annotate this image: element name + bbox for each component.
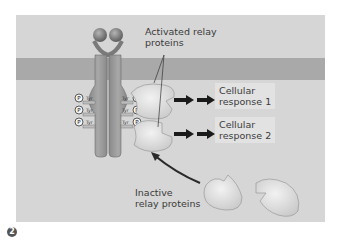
svg-text:Tyr: Tyr bbox=[121, 108, 129, 113]
step-number-badge: 2 bbox=[7, 227, 17, 237]
label-inactive-relay-proteins: Inactive relay proteins bbox=[135, 187, 200, 209]
cascade-arrows bbox=[174, 95, 215, 139]
response-line: response 2 bbox=[219, 130, 271, 141]
recruitment-arrow bbox=[154, 155, 200, 183]
diagram-panel: TyrTyrTyr TyrTyrTyr PPP PPP bbox=[16, 15, 325, 222]
svg-text:Tyr: Tyr bbox=[85, 108, 93, 113]
response-line: Cellular bbox=[219, 119, 271, 130]
cellular-response-1: Cellular response 1 bbox=[215, 83, 275, 109]
cellular-response-2: Cellular response 2 bbox=[215, 117, 275, 143]
inactive-relay-proteins bbox=[204, 175, 299, 216]
response-line: response 1 bbox=[219, 96, 271, 107]
label-line: Activated relay bbox=[145, 26, 217, 37]
svg-text:Tyr: Tyr bbox=[121, 96, 129, 101]
label-line: relay proteins bbox=[135, 198, 200, 209]
label-line: Inactive bbox=[135, 187, 200, 198]
svg-text:Tyr: Tyr bbox=[85, 96, 93, 101]
response-line: Cellular bbox=[219, 85, 271, 96]
svg-text:Tyr: Tyr bbox=[85, 120, 93, 125]
signal-molecules bbox=[93, 28, 123, 55]
label-line: proteins bbox=[145, 37, 217, 48]
label-activated-relay-proteins: Activated relay proteins bbox=[145, 26, 217, 48]
receptor-dimer: TyrTyrTyr TyrTyrTyr PPP PPP bbox=[75, 55, 141, 157]
svg-text:Tyr: Tyr bbox=[121, 120, 129, 125]
